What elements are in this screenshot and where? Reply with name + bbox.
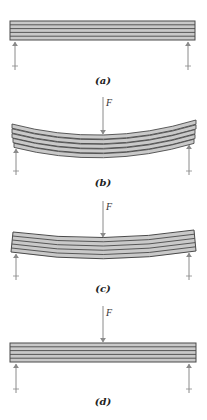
panel-d: F (d)	[10, 306, 196, 407]
beam-straight-layers	[10, 21, 195, 40]
force-label-d: F	[105, 307, 113, 318]
panel-a: (a)	[10, 21, 195, 86]
support-arrow-left-icon	[13, 364, 19, 393]
panel-b: F (b)	[12, 97, 196, 188]
force-label-c: F	[105, 201, 113, 212]
beam-straight-layers	[10, 343, 196, 362]
support-arrow-left-icon	[12, 42, 18, 70]
support-arrow-right-icon	[186, 253, 192, 280]
beam-slipping-layers	[12, 120, 196, 158]
support-arrow-right-icon	[186, 364, 192, 393]
panel-label-a: (a)	[95, 75, 111, 86]
panel-c: F (c)	[11, 201, 196, 294]
support-arrow-right-icon	[185, 42, 191, 70]
panel-label-c: (c)	[95, 283, 111, 294]
layered-beam-figure: (a) F (b) F	[0, 0, 207, 420]
panel-label-d: (d)	[95, 396, 112, 407]
force-label-b: F	[105, 97, 113, 108]
support-arrow-left-icon	[13, 254, 19, 280]
support-arrow-right-icon	[186, 145, 192, 175]
support-arrow-left-icon	[13, 149, 19, 175]
panel-label-b: (b)	[95, 177, 112, 188]
